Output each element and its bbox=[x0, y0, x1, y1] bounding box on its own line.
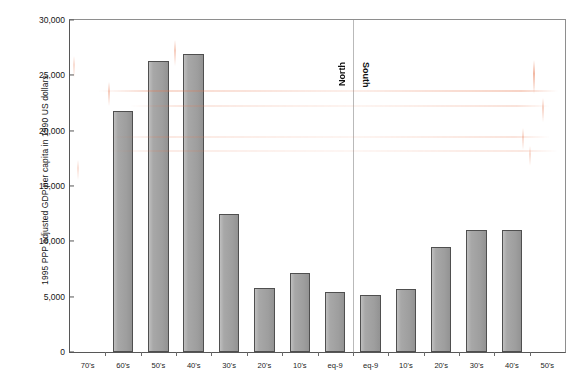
bar bbox=[325, 292, 346, 352]
bar bbox=[360, 295, 381, 352]
x-axis-tick-mark bbox=[459, 352, 460, 356]
scan-smudge-icon bbox=[108, 150, 558, 152]
y-axis-tick-label: 5,000 bbox=[44, 292, 70, 302]
x-axis-tick-mark bbox=[494, 352, 495, 356]
x-axis-tick-label: 40's bbox=[505, 361, 519, 370]
scan-smudge-icon bbox=[529, 146, 531, 166]
bar bbox=[219, 214, 240, 352]
bar bbox=[113, 111, 134, 352]
plot-area: 05,00010,00015,00020,00025,00030,000 70'… bbox=[69, 19, 566, 353]
x-axis-tick-mark bbox=[318, 352, 319, 356]
x-axis-tick-label: 10's bbox=[399, 361, 413, 370]
x-axis-tick-mark bbox=[247, 352, 248, 356]
x-axis-tick-label: 60's bbox=[116, 361, 130, 370]
x-axis-tick-mark bbox=[105, 352, 106, 356]
region-label-north: North bbox=[337, 62, 347, 86]
region-label-south: South bbox=[361, 62, 371, 88]
x-axis-tick-mark bbox=[211, 352, 212, 356]
x-axis-tick-mark bbox=[530, 352, 531, 356]
x-axis-tick-label: 30's bbox=[222, 361, 236, 370]
y-axis-tick-label: 15,000 bbox=[39, 181, 70, 191]
x-axis-tick-label: 20's bbox=[434, 361, 448, 370]
bar bbox=[148, 61, 169, 352]
x-axis-tick-mark bbox=[353, 352, 354, 356]
y-axis-tick-label: 10,000 bbox=[39, 236, 70, 246]
bar bbox=[396, 289, 417, 352]
bar bbox=[183, 54, 204, 352]
x-axis-tick-label: 30's bbox=[470, 361, 484, 370]
y-axis-tick-label: 25,000 bbox=[39, 70, 70, 80]
scan-smudge-icon bbox=[542, 98, 544, 122]
x-axis-tick-label: 40's bbox=[187, 361, 201, 370]
scan-smudge-icon bbox=[174, 40, 176, 66]
bar bbox=[290, 273, 311, 352]
x-axis-tick-mark bbox=[282, 352, 283, 356]
bar-chart-figure: 1995 PPP adjusted GDP per capita in 1990… bbox=[0, 0, 584, 392]
x-axis-tick-label: 20's bbox=[258, 361, 272, 370]
x-axis-tick-label: 50's bbox=[152, 361, 166, 370]
scan-smudge-icon bbox=[110, 136, 550, 138]
x-axis-tick-label: eq-9 bbox=[363, 361, 378, 370]
y-axis-tick-label: 20,000 bbox=[39, 126, 70, 136]
y-axis-tick-label: 0 bbox=[60, 347, 70, 357]
scan-smudge-icon bbox=[533, 60, 535, 94]
scan-smudge-icon bbox=[77, 160, 79, 180]
bar bbox=[254, 288, 275, 352]
scan-smudge-icon bbox=[522, 128, 524, 150]
x-axis-tick-label: 70's bbox=[81, 361, 95, 370]
region-divider bbox=[353, 20, 354, 352]
x-axis-tick-label: eq-9 bbox=[328, 361, 343, 370]
x-axis-tick-label: 50's bbox=[540, 361, 554, 370]
bar bbox=[431, 247, 452, 352]
bar bbox=[502, 230, 523, 352]
y-axis-tick-label: 30,000 bbox=[39, 15, 70, 25]
x-axis-tick-mark bbox=[141, 352, 142, 356]
x-axis-tick-mark bbox=[424, 352, 425, 356]
x-axis-tick-mark bbox=[388, 352, 389, 356]
x-axis-tick-label: 10's bbox=[293, 361, 307, 370]
scan-smudge-icon bbox=[108, 82, 110, 106]
bar bbox=[466, 230, 487, 352]
x-axis-tick-mark bbox=[176, 352, 177, 356]
